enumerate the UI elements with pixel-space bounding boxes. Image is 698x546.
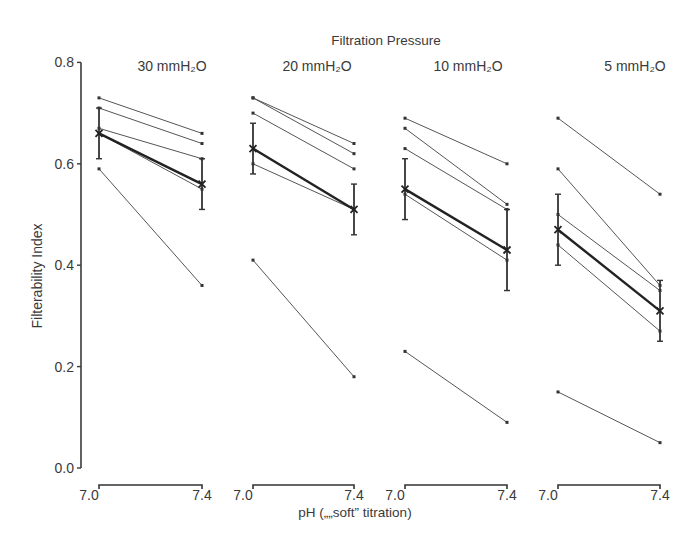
mean-line [253, 149, 354, 210]
y-tick-label: 0.0 [55, 460, 75, 476]
x-tick-label: 7.0 [538, 487, 558, 503]
panel-label: 10 mmH₂O [433, 58, 502, 74]
individual-line [405, 194, 507, 260]
chart-title: Filtration Pressure [331, 33, 441, 48]
data-point [557, 390, 560, 393]
x-bracket [253, 485, 354, 489]
individual-line [253, 260, 354, 377]
individual-line [405, 118, 507, 164]
panel-3 [402, 117, 511, 489]
data-point [201, 142, 204, 145]
panel-1 [96, 96, 206, 489]
filterability-chart: 0.00.20.40.60.8 Filterability IndexFiltr… [0, 0, 698, 546]
x-tick-label: 7.4 [497, 487, 517, 503]
data-point [353, 142, 356, 145]
x-tick-label: 7.0 [79, 487, 99, 503]
individual-line [99, 108, 202, 143]
individual-line [558, 169, 660, 286]
individual-line [558, 118, 660, 194]
data-point [506, 421, 509, 424]
individual-line [558, 215, 660, 291]
data-point [353, 375, 356, 378]
x-bracket [558, 485, 660, 489]
individual-line [99, 169, 202, 286]
individual-line [253, 164, 354, 210]
individual-line [99, 98, 202, 133]
data-point [557, 117, 560, 120]
data-point [659, 441, 662, 444]
data-point [659, 193, 662, 196]
panel-label: 5 mmH₂O [604, 58, 666, 74]
x-axis-title: pH („„soft” titration) [298, 505, 411, 520]
data-point [252, 259, 255, 262]
x-bracket [99, 485, 202, 489]
panel-label: 20 mmH₂O [282, 58, 351, 74]
individual-line [405, 128, 507, 204]
individual-line [253, 113, 354, 169]
individual-line [405, 351, 507, 422]
individual-line [405, 149, 507, 210]
data-point [404, 350, 407, 353]
y-tick-label: 0.4 [55, 257, 75, 273]
x-tick-label: 7.4 [344, 487, 364, 503]
data-point [557, 167, 560, 170]
y-tick-label: 0.2 [55, 359, 75, 375]
mean-line [99, 133, 202, 184]
y-axis-title: Filterability Index [29, 223, 45, 328]
data-point [98, 167, 101, 170]
x-tick-label: 7.4 [192, 487, 212, 503]
individual-line [99, 128, 202, 158]
panel-2 [250, 96, 358, 489]
data-point [201, 132, 204, 135]
x-bracket [405, 485, 507, 489]
data-point [252, 96, 255, 99]
mean-line [558, 230, 660, 311]
y-axis: 0.00.20.40.60.8 [55, 54, 81, 476]
x-tick-label: 7.0 [233, 487, 253, 503]
x-tick-label: 7.4 [650, 487, 670, 503]
data-point [353, 152, 356, 155]
data-point [506, 162, 509, 165]
data-point [404, 117, 407, 120]
data-point [98, 96, 101, 99]
data-point [353, 167, 356, 170]
panel-label: 30 mmH₂O [137, 58, 206, 74]
data-point [506, 203, 509, 206]
y-tick-label: 0.8 [55, 54, 75, 70]
individual-line [558, 245, 660, 331]
x-tick-label: 7.0 [385, 487, 405, 503]
individual-line [558, 392, 660, 443]
individual-line [253, 98, 354, 154]
panel-4 [555, 117, 664, 489]
individual-line [253, 98, 354, 144]
y-tick-label: 0.6 [55, 156, 75, 172]
mean-line [405, 189, 507, 250]
data-point [201, 284, 204, 287]
data-point [404, 127, 407, 130]
data-point [252, 112, 255, 115]
chart-panels [96, 96, 664, 489]
data-point [404, 147, 407, 150]
chart-labels: Filterability IndexFiltration Pressure30… [29, 33, 670, 520]
